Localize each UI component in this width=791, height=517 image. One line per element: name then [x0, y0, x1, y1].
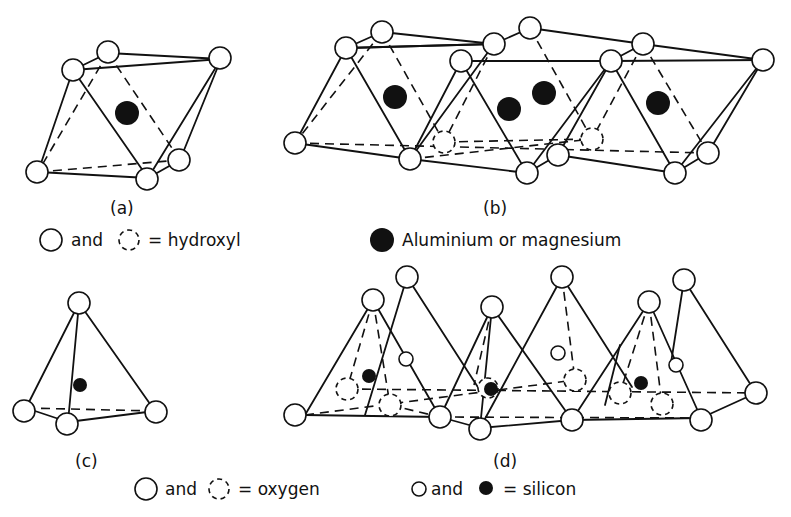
- hydroxyl-atom: [26, 161, 48, 183]
- oxygen-atom: [673, 269, 695, 291]
- hydroxyl-atom: [97, 41, 119, 63]
- hydroxyl-atom: [209, 47, 231, 69]
- oxygen-atom: [429, 406, 451, 428]
- hydroxyl-atom: [697, 142, 719, 164]
- panel-a-octahedron: [26, 41, 231, 190]
- metal-atom: [532, 81, 556, 105]
- panel-d-tetrahedral-sheet: [284, 266, 767, 440]
- dashed-circle-icon: [209, 479, 229, 499]
- svg-text:and: and: [71, 230, 103, 250]
- silicon-atom: [634, 376, 648, 390]
- oxygen-atom: [690, 409, 712, 431]
- hydroxyl-atom: [371, 21, 393, 43]
- silicon-atom: [73, 378, 87, 392]
- solid-circle-icon: [40, 229, 62, 251]
- legend-metal: Aluminium or magnesium: [370, 228, 621, 252]
- hydroxyl-atom-hidden: [581, 128, 603, 150]
- hydroxyl-atom: [547, 144, 569, 166]
- hydroxyl-atom: [600, 50, 622, 72]
- hydroxyl-atom: [632, 33, 654, 55]
- hydroxyl-atom: [483, 33, 505, 55]
- small-filled-circle-icon: [479, 481, 493, 495]
- hydroxyl-atom: [284, 132, 306, 154]
- svg-text:and: and: [431, 479, 463, 499]
- panel-a-label: (a): [110, 198, 134, 218]
- svg-text:= silicon: = silicon: [503, 479, 576, 499]
- legend-hydroxyl: and = hydroxyl: [40, 229, 241, 251]
- silicon-atom-hidden: [669, 358, 683, 372]
- oxygen-atom: [561, 409, 583, 431]
- legend-silicon: and = silicon: [412, 479, 576, 499]
- hydroxyl-atom: [664, 162, 686, 184]
- metal-atom: [497, 97, 521, 121]
- hydroxyl-atom: [519, 17, 541, 39]
- oxygen-atom: [638, 291, 660, 313]
- oxygen-atom: [551, 266, 573, 288]
- oxygen-atom: [68, 292, 90, 314]
- svg-text:= oxygen: = oxygen: [238, 479, 320, 499]
- svg-text:Aluminium or magnesium: Aluminium or magnesium: [402, 230, 621, 250]
- oxygen-atom-hidden: [379, 394, 401, 416]
- legend-oxygen: and = oxygen: [135, 478, 320, 500]
- oxygen-atom-hidden: [609, 382, 631, 404]
- hydroxyl-atom: [168, 149, 190, 171]
- svg-text:= hydroxyl: = hydroxyl: [148, 230, 241, 250]
- oxygen-atom-hidden: [651, 393, 673, 415]
- silicon-atom: [484, 382, 498, 396]
- oxygen-atom: [469, 418, 491, 440]
- clay-mineral-diagram: (a): [0, 0, 791, 517]
- panel-d-label: (d): [493, 451, 517, 471]
- hydroxyl-atom: [399, 148, 421, 170]
- oxygen-atom-hidden: [336, 378, 358, 400]
- panel-c-tetrahedron: [13, 292, 167, 435]
- hydroxyl-atom: [450, 50, 472, 72]
- hydroxyl-atom: [136, 168, 158, 190]
- oxygen-atom-hidden: [564, 369, 586, 391]
- small-open-circle-icon: [412, 482, 426, 496]
- panel-b-label: (b): [483, 198, 507, 218]
- filled-circle-icon: [370, 228, 394, 252]
- hydroxyl-atom: [335, 37, 357, 59]
- hydroxyl-atom-hidden: [433, 131, 455, 153]
- panel-c-label: (c): [75, 451, 98, 471]
- oxygen-atom: [145, 401, 167, 423]
- silicon-atom-hidden: [399, 352, 413, 366]
- panel-b-octahedral-sheet: [284, 17, 774, 184]
- oxygen-atom: [13, 400, 35, 422]
- oxygen-atom: [396, 266, 418, 288]
- silicon-atom-hidden: [551, 346, 565, 360]
- oxygen-atom: [362, 289, 384, 311]
- silicon-atom: [362, 369, 376, 383]
- oxygen-atom: [481, 296, 503, 318]
- dashed-circle-icon: [119, 230, 139, 250]
- oxygen-atom: [284, 404, 306, 426]
- svg-text:and: and: [165, 479, 197, 499]
- hydroxyl-atom: [516, 162, 538, 184]
- hydroxyl-atom: [752, 49, 774, 71]
- oxygen-atom: [56, 413, 78, 435]
- hydroxyl-atom: [62, 59, 84, 81]
- metal-atom: [115, 101, 139, 125]
- oxygen-atom: [745, 382, 767, 404]
- metal-atom: [646, 91, 670, 115]
- solid-circle-icon: [135, 478, 157, 500]
- metal-atom: [383, 85, 407, 109]
